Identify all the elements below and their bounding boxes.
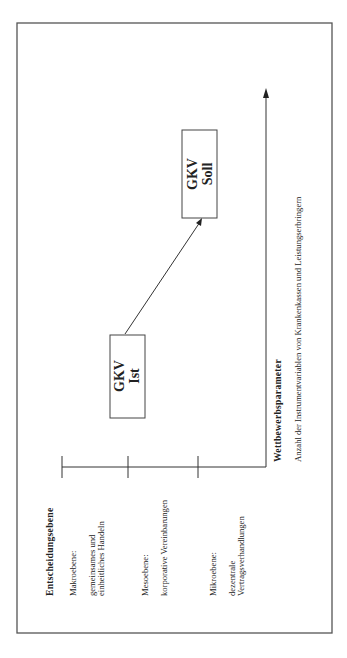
node-gkv-ist-line-2: Ist: [127, 368, 142, 384]
node-gkv-soll-line-1: GKV: [185, 158, 200, 190]
parameter-axis-title: Wettbewerbsparameter: [272, 359, 283, 462]
transition-arrowhead: [196, 218, 202, 226]
level-meso-desc-1: korporative Vereinbarungen: [159, 499, 169, 596]
node-gkv-soll: GKV Soll: [182, 130, 217, 218]
level-axis-title: Entscheidungsebene: [44, 507, 55, 596]
transition-arrow: [125, 222, 200, 334]
node-gkv-ist-line-1: GKV: [112, 360, 127, 392]
level-mikro-name: Mikroebene:: [208, 552, 218, 596]
diagram-canvas: Entscheidungsebene Makroebene: gemeinsam…: [0, 0, 347, 658]
parameter-axis-subtitle: Anzahl der Instrumentvariablen von Krank…: [293, 196, 303, 462]
outer-frame: [17, 23, 332, 633]
level-mikro-desc-2: Vertragsverhandlungen: [236, 516, 246, 596]
node-gkv-ist: GKV Ist: [110, 335, 145, 418]
level-makro-name: Makroebene:: [68, 551, 78, 596]
parameter-axis-arrowhead: [263, 88, 269, 98]
level-makro-desc-2: einheitliches Handeln: [96, 521, 106, 596]
level-meso-name: Mesoebene:: [140, 554, 150, 596]
node-gkv-soll-line-2: Soll: [200, 163, 215, 186]
